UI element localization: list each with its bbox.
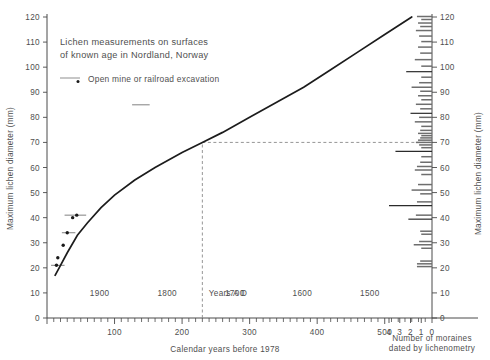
left-axis-tick-label: 10 bbox=[30, 289, 40, 298]
left-axis-tick-label: 50 bbox=[30, 189, 40, 198]
data-point bbox=[55, 264, 58, 267]
chart-canvas: Lichen measurements on surfaces of known… bbox=[0, 0, 490, 360]
legend: Open mine or railroad excavation bbox=[60, 74, 219, 84]
right-axis-tick-label: 110 bbox=[440, 38, 454, 47]
data-point bbox=[66, 231, 69, 234]
histogram-axis-title-2: dated by lichenometry bbox=[389, 344, 476, 353]
moraine-histogram bbox=[389, 16, 432, 266]
right-axis-tick-label: 10 bbox=[440, 289, 450, 298]
right-axis-tick-label: 70 bbox=[440, 138, 450, 147]
left-axis-tick-label: 20 bbox=[30, 264, 40, 273]
bottom-secondary-tick-label: 1600 bbox=[293, 289, 313, 298]
legend-dot-symbol bbox=[77, 80, 80, 83]
right-axis-tick-label: 60 bbox=[440, 164, 450, 173]
left-axis-tick-label: 30 bbox=[30, 239, 40, 248]
left-axis-tick-label: 60 bbox=[30, 164, 40, 173]
bottom-secondary-title: Years A D bbox=[209, 289, 247, 298]
lichenometry-chart: Lichen measurements on surfaces of known… bbox=[0, 0, 490, 360]
right-axis-tick-label: 80 bbox=[440, 113, 450, 122]
left-axis-tick-label: 40 bbox=[30, 214, 40, 223]
bottom-axis-tick-label: 100 bbox=[107, 328, 122, 337]
bottom-axis-tick-label: 400 bbox=[310, 328, 325, 337]
left-axis-tick-label: 0 bbox=[35, 314, 40, 323]
chart-title-line1: Lichen measurements on surfaces bbox=[60, 37, 208, 47]
left-axis-title: Maximum lichen diameter (mm) bbox=[6, 107, 15, 230]
bottom-secondary-tick-label: 1800 bbox=[157, 289, 177, 298]
bottom-axis-tick-label: 300 bbox=[242, 328, 257, 337]
right-axis-tick-label: 120 bbox=[440, 13, 455, 22]
left-axis-tick-label: 100 bbox=[25, 63, 40, 72]
legend-item-label: Open mine or railroad excavation bbox=[88, 74, 219, 84]
bottom-secondary-tick-label: 1900 bbox=[90, 289, 110, 298]
data-point bbox=[62, 244, 65, 247]
bottom-axis-title: Calendar years before 1978 bbox=[170, 345, 279, 354]
data-point bbox=[71, 216, 74, 219]
right-axis-tick-label: 50 bbox=[440, 189, 450, 198]
right-axis-tick-label: 20 bbox=[440, 264, 450, 273]
left-axis-tick-label: 90 bbox=[30, 88, 40, 97]
data-point bbox=[56, 256, 59, 259]
right-axis-tick-label: 100 bbox=[440, 63, 455, 72]
bottom-secondary-tick-label: 1500 bbox=[360, 289, 380, 298]
left-axis-tick-label: 80 bbox=[30, 113, 40, 122]
left-axis-tick-label: 120 bbox=[25, 13, 40, 22]
right-axis-tick-label: 30 bbox=[440, 239, 450, 248]
right-axis-title: Maximum lichen diameter (mm) bbox=[474, 112, 483, 235]
chart-title-line2: of known age in Nordland, Norway bbox=[60, 50, 209, 60]
right-axis-tick-label: 40 bbox=[440, 214, 450, 223]
left-axis: 0102030405060708090100110120 bbox=[25, 13, 47, 323]
data-point bbox=[75, 213, 78, 216]
bottom-axis-tick-label: 200 bbox=[175, 328, 190, 337]
histogram-axis-title-1: Number of moraines bbox=[392, 334, 472, 343]
left-axis-tick-label: 70 bbox=[30, 138, 40, 147]
right-axis: 0102030405060708090100110120 bbox=[432, 13, 455, 323]
error-bars bbox=[51, 105, 150, 266]
histogram-axis-tick-label: 4 bbox=[387, 328, 392, 337]
right-axis-tick-label: 90 bbox=[440, 88, 450, 97]
left-axis-tick-label: 110 bbox=[26, 38, 40, 47]
chart-title-group: Lichen measurements on surfaces of known… bbox=[60, 37, 209, 60]
